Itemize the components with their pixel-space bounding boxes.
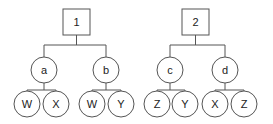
tree-diagram-svg: WXaWYb1ZYcXZd2 <box>0 0 273 124</box>
child-node-label: c <box>167 64 173 76</box>
leaf-node-label: X <box>211 98 219 110</box>
leaf-node-label: Z <box>241 98 248 110</box>
child-node-label: a <box>41 64 48 76</box>
leaf-node-label: Y <box>181 98 189 110</box>
leaf-node-label: W <box>87 98 98 110</box>
child-node-label: b <box>103 64 109 76</box>
root-node-label: 1 <box>73 16 79 28</box>
root-node-label: 2 <box>192 16 198 28</box>
leaf-node-label: Z <box>154 98 161 110</box>
tree-diagram: WXaWYb1ZYcXZd2 <box>0 0 273 124</box>
leaf-node-label: Y <box>117 98 125 110</box>
child-node-label: d <box>222 64 228 76</box>
leaf-node-label: W <box>22 98 33 110</box>
leaf-node-label: X <box>52 98 60 110</box>
